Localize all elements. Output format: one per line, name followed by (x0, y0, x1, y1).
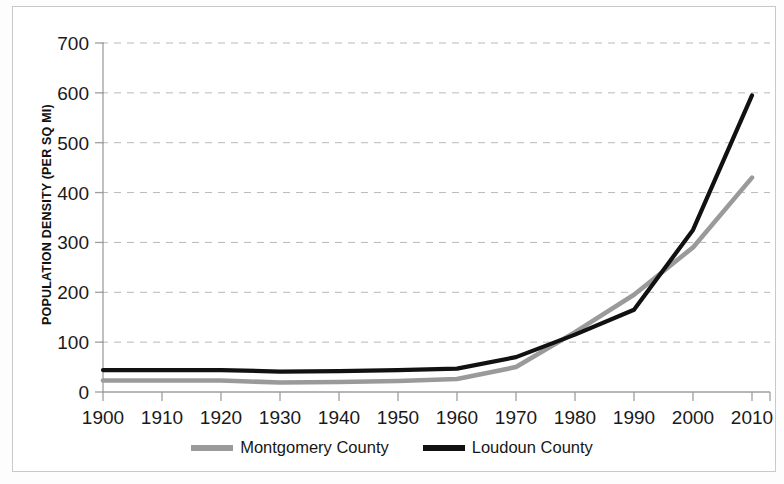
population-density-chart: POPULATION DENSITY (PER SQ MI) 010020030… (0, 0, 784, 484)
data-series (103, 95, 752, 382)
x-tick-label: 1960 (436, 407, 478, 428)
y-tick-label: 100 (57, 332, 89, 353)
x-tick-label: 2010 (731, 407, 773, 428)
x-axis (103, 392, 770, 401)
y-tick-label: 400 (57, 183, 89, 204)
x-tick-label: 1910 (141, 407, 183, 428)
y-tick-label: 600 (57, 83, 89, 104)
plot-area: 0100200300400500600700 19001910192019301… (0, 0, 784, 484)
x-tick-labels: 1900191019201930194019501960197019801990… (82, 407, 773, 428)
y-tick-labels: 0100200300400500600700 (57, 33, 89, 403)
chart-legend: Montgomery County Loudoun County (0, 438, 784, 457)
legend-entry-loudoun: Loudoun County (423, 438, 593, 457)
legend-label-loudoun: Loudoun County (472, 438, 593, 457)
x-tick-label: 1930 (259, 407, 301, 428)
y-tick-label: 500 (57, 133, 89, 154)
y-axis (95, 43, 104, 392)
x-tick-label: 1950 (377, 407, 419, 428)
x-tick-label: 1970 (495, 407, 537, 428)
x-tick-label: 1940 (318, 407, 360, 428)
y-tick-label: 700 (57, 33, 89, 54)
x-tick-label: 1900 (82, 407, 124, 428)
y-tick-label: 200 (57, 282, 89, 303)
gridlines (101, 43, 770, 342)
series-line-loudoun-county (103, 95, 752, 371)
x-tick-label: 2000 (672, 407, 714, 428)
legend-entry-montgomery: Montgomery County (191, 438, 389, 457)
x-tick-label: 1990 (613, 407, 655, 428)
x-tick-label: 1980 (554, 407, 596, 428)
x-tick-label: 1920 (200, 407, 242, 428)
legend-label-montgomery: Montgomery County (240, 438, 389, 457)
y-tick-label: 300 (57, 232, 89, 253)
legend-swatch-loudoun (423, 445, 465, 451)
legend-swatch-montgomery (191, 445, 233, 451)
y-tick-label: 0 (78, 382, 89, 403)
